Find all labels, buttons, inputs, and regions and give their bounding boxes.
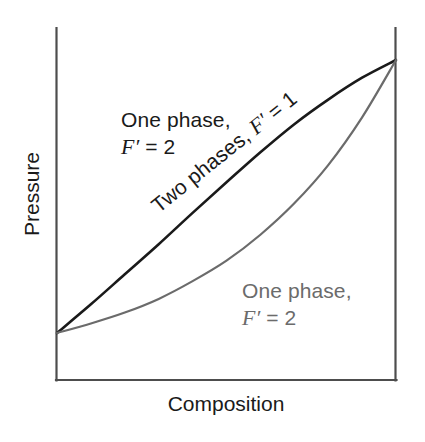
- degrees-of-freedom-symbol-upper: F′: [121, 135, 139, 159]
- annotation-one-phase-lower-line1: One phase,: [242, 278, 352, 305]
- degrees-of-freedom-value-upper: = 2: [139, 135, 175, 158]
- annotation-one-phase-lower: One phase, F′ = 2: [242, 278, 352, 333]
- y-axis-label: Pressure: [20, 134, 44, 254]
- degrees-of-freedom-value-lower: = 2: [260, 306, 296, 329]
- x-axis-label: Composition: [56, 392, 396, 416]
- phase-diagram-figure: One phase, F′ = 2 One phase, F′ = 2 Two …: [0, 0, 425, 442]
- annotation-one-phase-upper-line1: One phase,: [121, 107, 231, 134]
- annotation-one-phase-lower-line2: F′ = 2: [242, 305, 352, 333]
- plot-area: [0, 0, 425, 442]
- degrees-of-freedom-symbol-lower: F′: [242, 306, 260, 330]
